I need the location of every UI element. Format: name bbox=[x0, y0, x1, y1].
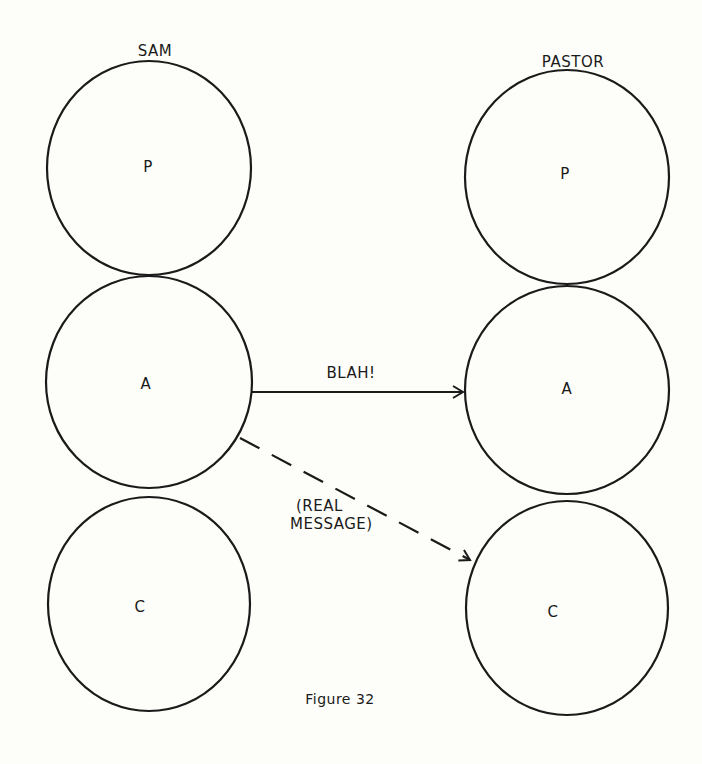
sam-label: SAM bbox=[138, 42, 173, 60]
dashed-arrow bbox=[240, 438, 470, 560]
figure-caption: Figure 32 bbox=[305, 691, 375, 707]
blah-label: BLAH! bbox=[326, 364, 375, 382]
real-message-label-line1: (REAL bbox=[296, 497, 343, 515]
sam-a-label: A bbox=[141, 375, 152, 393]
pastor-label: PASTOR bbox=[542, 53, 604, 71]
sam-p-label: P bbox=[143, 158, 153, 176]
real-message-label-line2: MESSAGE) bbox=[290, 515, 373, 533]
pastor-c-label: C bbox=[548, 603, 559, 621]
sam-c-label: C bbox=[135, 598, 146, 616]
sam-child-circle bbox=[48, 497, 250, 711]
pastor-a-label: A bbox=[562, 380, 573, 398]
diagram-canvas bbox=[0, 0, 702, 764]
pastor-p-label: P bbox=[560, 165, 570, 183]
pastor-child-circle bbox=[466, 501, 668, 715]
